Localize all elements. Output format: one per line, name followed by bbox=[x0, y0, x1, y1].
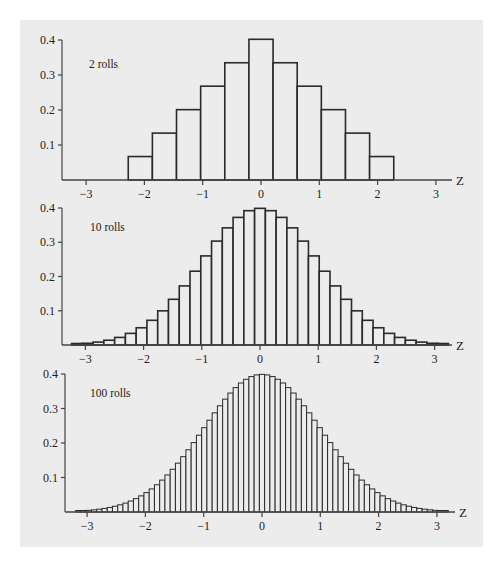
histogram-figure: 0.10.20.30.4−3−2−10123Z2 rolls 0.10.20.3… bbox=[0, 0, 501, 562]
histogram-bar bbox=[384, 333, 395, 345]
histogram-bar bbox=[280, 383, 285, 512]
histogram-bar bbox=[275, 379, 280, 512]
histogram-bar bbox=[128, 501, 133, 512]
histogram-bar bbox=[186, 450, 191, 512]
x-tick-label: 3 bbox=[434, 519, 440, 533]
y-tick-label: 0.2 bbox=[40, 103, 55, 117]
histogram-bar bbox=[104, 340, 115, 345]
histogram-bar bbox=[406, 506, 411, 512]
x-tick-label: 1 bbox=[317, 519, 323, 533]
histogram-bar bbox=[207, 420, 212, 512]
histogram-bar bbox=[160, 480, 165, 512]
histogram-bar bbox=[301, 406, 306, 512]
histogram-bar bbox=[321, 110, 345, 180]
histogram-bar bbox=[217, 406, 222, 512]
histogram-bar bbox=[373, 328, 384, 345]
histogram-bar bbox=[401, 505, 406, 512]
histogram-bar bbox=[233, 388, 238, 512]
histogram-bar bbox=[222, 228, 233, 345]
histogram-bar bbox=[385, 499, 390, 512]
panel-label: 2 rolls bbox=[89, 58, 119, 70]
histogram-bar bbox=[328, 443, 333, 512]
x-tick-label: −1 bbox=[196, 187, 209, 201]
x-tick-label: −3 bbox=[80, 187, 93, 201]
histogram-bar bbox=[136, 328, 147, 345]
x-axis-label: Z bbox=[456, 338, 464, 353]
histogram-bar bbox=[228, 393, 233, 512]
histogram-bar bbox=[273, 63, 297, 180]
histogram-bar bbox=[291, 393, 296, 512]
histogram-bar bbox=[165, 475, 170, 512]
bars bbox=[76, 374, 449, 512]
histogram-bar bbox=[330, 286, 341, 345]
y-tick-label: 0.1 bbox=[40, 304, 55, 318]
histogram-bar bbox=[179, 286, 190, 345]
histogram-bar bbox=[225, 63, 249, 180]
y-tick-label: 0.4 bbox=[40, 201, 55, 215]
histogram-bar bbox=[259, 374, 264, 512]
histogram-bar bbox=[312, 420, 317, 512]
bars bbox=[128, 39, 393, 180]
histogram-bar bbox=[139, 496, 144, 512]
x-tick-label: 2 bbox=[376, 519, 382, 533]
x-tick-label: 2 bbox=[375, 187, 381, 201]
histogram-bar bbox=[396, 503, 401, 512]
x-tick-label: 3 bbox=[433, 187, 439, 201]
histogram-bar bbox=[270, 377, 275, 512]
histogram-bar bbox=[244, 379, 249, 512]
y-tick-label: 0.3 bbox=[40, 68, 55, 82]
histogram-bar bbox=[286, 388, 291, 512]
histogram-bar bbox=[265, 211, 276, 345]
histogram-bar bbox=[223, 399, 228, 512]
histogram-bar bbox=[201, 86, 225, 180]
histogram-bar bbox=[395, 337, 406, 345]
histogram-bar bbox=[391, 501, 396, 512]
histogram-bar bbox=[307, 413, 312, 512]
histogram-bar bbox=[112, 506, 117, 512]
histogram-bar bbox=[202, 428, 207, 512]
histogram-bar bbox=[298, 241, 309, 345]
y-tick-label: 0.4 bbox=[43, 367, 58, 381]
x-tick-label: 0 bbox=[258, 187, 264, 201]
histogram-bar bbox=[170, 469, 175, 512]
histogram-bar bbox=[238, 383, 243, 512]
histogram-bar bbox=[149, 489, 154, 512]
x-axis-label: Z bbox=[459, 505, 467, 520]
histogram-bar bbox=[144, 493, 149, 512]
histogram-bar bbox=[359, 480, 364, 512]
histogram-bar bbox=[276, 217, 287, 345]
histogram-bar bbox=[233, 217, 244, 345]
histogram-bar bbox=[249, 39, 273, 180]
histogram-bar bbox=[375, 493, 380, 512]
x-axis-label: Z bbox=[456, 173, 464, 188]
histogram-bar bbox=[175, 463, 180, 512]
histogram-2-rolls: 0.10.20.30.4−3−2−10123Z2 rolls bbox=[40, 33, 464, 201]
histogram-bar bbox=[345, 133, 369, 180]
histogram-bar bbox=[244, 211, 255, 345]
histogram-bar bbox=[191, 443, 196, 512]
histogram-bar bbox=[343, 463, 348, 512]
y-tick-label: 0.3 bbox=[40, 235, 55, 249]
y-tick-label: 0.2 bbox=[43, 436, 58, 450]
histogram-bar bbox=[125, 333, 136, 345]
histogram-10-rolls: 0.10.20.30.4−3−2−10123Z10 rolls bbox=[40, 201, 464, 366]
histogram-bar bbox=[370, 489, 375, 512]
histogram-bar bbox=[380, 496, 385, 512]
x-tick-label: −1 bbox=[197, 519, 210, 533]
histogram-bar bbox=[254, 375, 259, 512]
histogram-bar bbox=[181, 457, 186, 512]
histogram-bar bbox=[362, 320, 373, 345]
histogram-bar bbox=[201, 256, 212, 345]
y-tick-label: 0.3 bbox=[43, 402, 58, 416]
histogram-bar bbox=[297, 86, 321, 180]
histogram-bar bbox=[405, 340, 416, 345]
x-tick-label: −2 bbox=[138, 187, 151, 201]
x-tick-label: 0 bbox=[259, 519, 265, 533]
bars bbox=[72, 208, 449, 345]
histogram-bar bbox=[333, 450, 338, 512]
histogram-bar bbox=[168, 299, 179, 345]
histogram-bar bbox=[158, 311, 169, 345]
histogram-bar bbox=[152, 133, 176, 180]
x-tick-label: −3 bbox=[81, 519, 94, 533]
x-tick-label: 0 bbox=[257, 352, 263, 366]
